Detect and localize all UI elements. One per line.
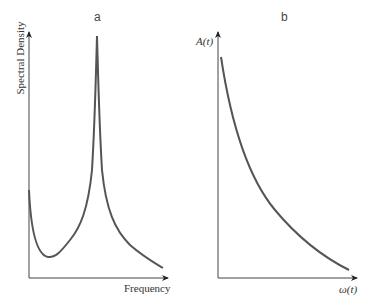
panel-a-x-label: Frequency: [124, 282, 170, 294]
panel-b-title: b: [281, 10, 288, 24]
figure-canvas: [0, 0, 375, 306]
panel-a-spectral-curve: [29, 36, 163, 268]
panel-a-y-label: Spectral Density: [14, 13, 26, 103]
panel-b-axes: [218, 32, 357, 278]
panel-b-amplitude-curve: [221, 57, 349, 270]
panel-b-x-label: ω(t): [339, 283, 357, 295]
panel-b-y-label: A(t): [196, 35, 213, 47]
panel-a-title: a: [94, 10, 101, 24]
